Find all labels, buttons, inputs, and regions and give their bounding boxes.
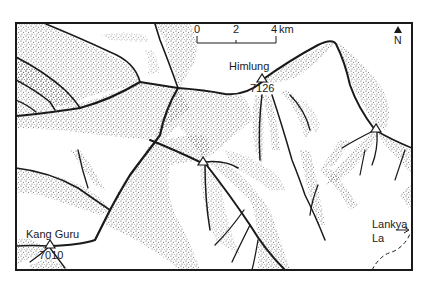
scale-tick-4: 4	[271, 24, 277, 35]
peak-elevation-kang-guru: 7010	[39, 250, 63, 261]
scale-tick-2: 2	[233, 24, 239, 35]
north-arrow-icon	[394, 26, 402, 33]
scale-tick-0: 0	[194, 24, 200, 35]
peak-elevation-himlung: 7126	[250, 83, 274, 94]
peak-name-kang-guru: Kang Guru	[26, 229, 79, 240]
scale-bar	[197, 36, 276, 43]
peak-name-himlung: Himlung	[229, 61, 269, 72]
scale-unit: km	[279, 24, 294, 35]
topographic-map	[0, 0, 424, 286]
pass-name-lankya: Lankya	[372, 219, 407, 230]
kang-guru-peak-icon	[45, 240, 55, 248]
pass-name-la: La	[372, 233, 384, 244]
north-label: N	[394, 35, 402, 46]
